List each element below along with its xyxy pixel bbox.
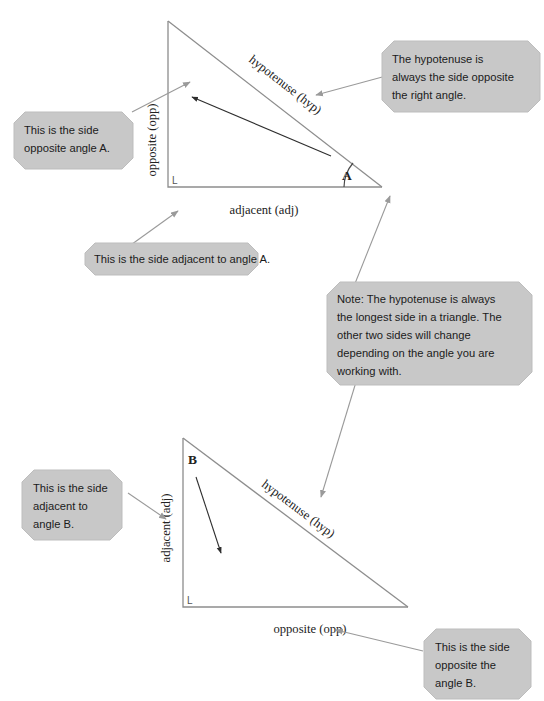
callout-note-longest-side[interactable]: Note: The hypotenuse is always the longe… <box>327 282 532 385</box>
callout-line: opposite angle A. <box>24 142 110 154</box>
angle-a-label: A <box>342 168 352 183</box>
callout-line: This is the side <box>24 124 99 136</box>
callout-line: This is the side <box>33 482 108 494</box>
bottom-side-opposite-label: opposite (opp) <box>273 622 346 636</box>
bottom-side-hypotenuse-label: hypotenuse (hyp) <box>259 477 338 541</box>
callout-opposite-angle-b[interactable]: This is the side opposite the angle B. <box>424 629 531 699</box>
bottom-side-adjacent-label: adjacent (adj) <box>159 494 173 563</box>
callout-line: The hypotenuse is <box>392 53 484 65</box>
top-side-hypotenuse-label: hypotenuse (hyp) <box>246 52 324 117</box>
callout-adjacent-angle-a[interactable]: This is the side adjacent to angle A. <box>85 243 270 275</box>
callout-shape <box>14 112 133 169</box>
callout-adjacent-angle-b[interactable]: This is the side adjacent to angle B. <box>22 470 122 540</box>
callout-line: other two sides will change <box>337 329 471 341</box>
callout-opposite-angle-a[interactable]: This is the side opposite angle A. <box>14 112 133 169</box>
callout-line: working with. <box>336 365 402 377</box>
callout-line: the right angle. <box>392 89 466 101</box>
leader-hypotenuse-right-angle <box>316 76 386 95</box>
leader-note-to-top-triangle <box>354 196 390 286</box>
bottom-triangle-group: L B adjacent (adj) opposite (opp) hypote… <box>159 438 408 636</box>
top-right-angle-mark: L <box>172 175 178 186</box>
top-triangle-group: L A opposite (opp) adjacent (adj) hypote… <box>145 21 382 217</box>
callout-line: This is the side adjacent to angle A. <box>94 253 270 265</box>
top-side-opposite-label: opposite (opp) <box>145 103 159 176</box>
callout-line: angle B. <box>435 677 476 689</box>
angle-b-label: B <box>188 452 197 467</box>
bottom-right-angle-mark: L <box>187 595 193 606</box>
callout-line: opposite the <box>435 659 496 671</box>
callout-line: depending on the angle you are <box>337 347 494 359</box>
leader-adjacent-angle-a <box>128 211 178 247</box>
diagram-svg: L A opposite (opp) adjacent (adj) hypote… <box>0 0 544 701</box>
leader-opposite-angle-b <box>336 630 423 651</box>
callout-line: adjacent to <box>33 500 88 512</box>
leader-note-to-bottom-triangle <box>321 382 356 497</box>
callout-line: the longest side in a triangle. The <box>337 311 502 323</box>
diagram-canvas: L A opposite (opp) adjacent (adj) hypote… <box>0 0 544 701</box>
callout-line: This is the side <box>435 641 510 653</box>
leader-opposite-angle-a <box>132 82 190 112</box>
callout-hypotenuse-right-angle[interactable]: The hypotenuse is always the side opposi… <box>382 41 540 112</box>
callout-line: Note: The hypotenuse is always <box>337 293 496 305</box>
callout-line: always the side opposite <box>392 71 514 83</box>
top-side-adjacent-label: adjacent (adj) <box>230 203 299 217</box>
callout-line: angle B. <box>33 518 74 530</box>
top-triangle-hypotenuse-line <box>168 21 382 187</box>
bottom-inner-arrow <box>196 477 221 553</box>
bottom-triangle-hypotenuse-line <box>183 438 408 607</box>
